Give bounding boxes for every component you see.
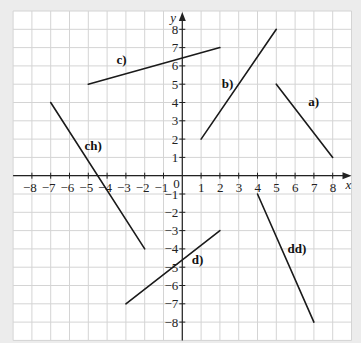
x-tick-label: 8: [330, 180, 337, 195]
y-tick-label: −3: [164, 223, 178, 238]
y-tick-label: −4: [164, 241, 178, 256]
y-tick-label: 2: [172, 132, 179, 147]
y-tick-label: −8: [164, 315, 178, 330]
y-tick-label: 3: [172, 113, 179, 128]
x-tick-label: −2: [136, 180, 150, 195]
segment-label-ch: ch): [85, 138, 102, 153]
x-tick-label: −8: [23, 180, 37, 195]
y-tick-label: −7: [164, 296, 178, 311]
x-axis-label: x: [345, 177, 352, 192]
x-tick-label: 7: [311, 180, 318, 195]
y-tick-label: 7: [172, 40, 179, 55]
x-tick-label: 2: [217, 180, 224, 195]
segment-label-dd: dd): [288, 241, 307, 256]
x-tick-label: 5: [273, 180, 280, 195]
x-tick-label: −7: [42, 180, 56, 195]
segment-label-a: a): [308, 94, 319, 109]
x-tick-label: 1: [198, 180, 205, 195]
segment-label-c: c): [117, 52, 127, 67]
segment-label-d: d): [192, 252, 204, 267]
x-tick-label: 3: [236, 180, 243, 195]
x-tick-label: −3: [117, 180, 131, 195]
y-tick-label: 4: [172, 95, 179, 110]
y-tick-label: −2: [164, 205, 178, 220]
y-tick-label: −6: [164, 278, 178, 293]
y-tick-label: 5: [172, 77, 179, 92]
coordinate-plane-chart: xy −8−7−6−5−4−3−2−112345678−8−7−6−5−4−3−…: [0, 0, 361, 343]
x-tick-label: 6: [292, 180, 299, 195]
segment-label-b: b): [222, 76, 234, 91]
origin-label: 0: [173, 176, 180, 191]
x-tick-label: −5: [79, 180, 93, 195]
y-tick-label: 8: [172, 22, 179, 37]
y-tick-label: 1: [172, 150, 179, 165]
x-tick-label: 4: [255, 180, 262, 195]
x-tick-label: −6: [61, 180, 75, 195]
